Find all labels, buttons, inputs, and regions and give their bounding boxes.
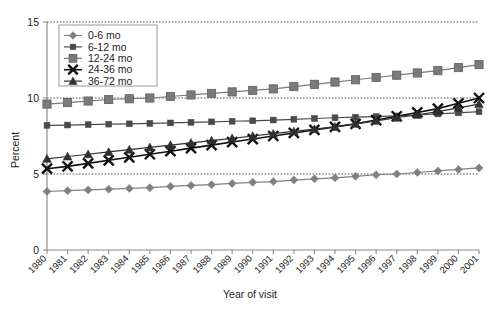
x-tick-label-1990: 1990 xyxy=(231,253,254,276)
data-point xyxy=(228,179,236,187)
data-point xyxy=(146,94,154,102)
x-tick-label-1984: 1984 xyxy=(108,253,131,276)
line-chart: 051015 198019811982198319841985198619871… xyxy=(0,0,497,313)
y-tick-labels: 051015 xyxy=(27,16,39,256)
y-axis-title: Percent xyxy=(9,132,21,168)
data-point xyxy=(166,92,174,100)
data-point xyxy=(352,172,360,180)
data-point xyxy=(454,64,462,72)
x-tick-label-2000: 2000 xyxy=(437,253,460,276)
data-point xyxy=(413,168,421,176)
data-point xyxy=(65,122,71,128)
series-36-72-mo xyxy=(43,100,484,163)
data-point xyxy=(64,187,72,195)
x-tick-label-1999: 1999 xyxy=(417,253,440,276)
data-point xyxy=(44,122,50,128)
x-tick-label-1994: 1994 xyxy=(314,253,337,276)
x-axis-title: Year of visit xyxy=(223,288,277,300)
x-tick-label-1996: 1996 xyxy=(355,253,378,276)
chart-container: 051015 198019811982198319841985198619871… xyxy=(0,0,497,313)
data-point xyxy=(434,67,442,75)
legend-marker xyxy=(70,44,76,50)
x-tick-label-1986: 1986 xyxy=(149,253,172,276)
data-point xyxy=(63,98,71,106)
x-tick-label-1988: 1988 xyxy=(190,253,213,276)
x-tick-label-1997: 1997 xyxy=(375,253,398,276)
data-point xyxy=(269,85,277,93)
data-point xyxy=(187,181,195,189)
data-point xyxy=(187,91,195,99)
data-point xyxy=(250,118,256,124)
data-point xyxy=(228,88,236,96)
x-tick-label-1992: 1992 xyxy=(273,253,296,276)
legend-label: 24-36 mo xyxy=(88,63,133,75)
data-point xyxy=(229,118,235,124)
data-point xyxy=(291,116,297,122)
legend-label: 12-24 mo xyxy=(88,52,133,64)
x-tick-labels: 1980198119821983198419851986198719881989… xyxy=(26,253,481,276)
data-point xyxy=(372,171,380,179)
data-point xyxy=(475,60,483,68)
legend-label: 36-72 mo xyxy=(88,75,133,87)
y-tick-label-5: 5 xyxy=(33,168,39,180)
data-point xyxy=(125,184,133,192)
data-point xyxy=(454,165,462,173)
data-point xyxy=(105,185,113,193)
data-point xyxy=(209,119,215,125)
x-tick-label-1981: 1981 xyxy=(46,253,69,276)
series-24-36-mo xyxy=(42,93,484,174)
data-point xyxy=(168,120,174,126)
data-point xyxy=(84,186,92,194)
data-point xyxy=(332,115,338,121)
data-point xyxy=(146,184,154,192)
y-tick-label-10: 10 xyxy=(27,92,39,104)
data-point xyxy=(331,78,339,86)
data-point xyxy=(475,164,483,172)
legend-label: 0-6 mo xyxy=(88,29,121,41)
x-tick-label-1995: 1995 xyxy=(334,253,357,276)
data-point xyxy=(290,83,298,91)
data-point xyxy=(249,86,257,94)
data-point xyxy=(351,76,359,84)
data-point xyxy=(166,182,174,190)
data-point xyxy=(106,121,112,127)
y-tick-label-15: 15 xyxy=(27,16,39,28)
data-point xyxy=(310,80,318,88)
legend-marker xyxy=(69,54,77,62)
x-tick-label-2001: 2001 xyxy=(458,253,481,276)
data-point xyxy=(372,73,380,81)
data-point xyxy=(147,120,153,126)
x-tick-label-1985: 1985 xyxy=(129,253,152,276)
data-point xyxy=(269,178,277,186)
x-tick-label-1987: 1987 xyxy=(170,253,193,276)
data-point xyxy=(413,69,421,77)
legend-label: 6-12 mo xyxy=(88,41,127,53)
data-point xyxy=(290,176,298,184)
x-tick-label-1983: 1983 xyxy=(87,253,110,276)
data-point xyxy=(312,116,318,122)
data-point xyxy=(43,187,51,195)
x-tick-label-1989: 1989 xyxy=(211,253,234,276)
x-tick-label-1980: 1980 xyxy=(26,253,49,276)
data-point xyxy=(85,122,91,128)
series-0-6-mo xyxy=(43,164,483,196)
data-point xyxy=(393,71,401,79)
x-tick-label-1982: 1982 xyxy=(67,253,90,276)
x-tick-label-1991: 1991 xyxy=(252,253,275,276)
data-point xyxy=(84,97,92,105)
chart-legend: 0-6 mo6-12 mo12-24 mo24-36 mo36-72 mo xyxy=(59,25,157,87)
data-point xyxy=(310,175,318,183)
data-point xyxy=(249,178,257,186)
x-tick-label-1998: 1998 xyxy=(396,253,419,276)
data-point xyxy=(43,100,51,108)
data-point xyxy=(476,109,482,115)
data-point xyxy=(393,170,401,178)
data-point xyxy=(125,95,133,103)
data-point xyxy=(208,181,216,189)
data-point xyxy=(105,95,113,103)
data-point xyxy=(270,117,276,123)
x-tick-label-1993: 1993 xyxy=(293,253,316,276)
data-point xyxy=(188,119,194,125)
data-point xyxy=(207,89,215,97)
data-point xyxy=(331,174,339,182)
